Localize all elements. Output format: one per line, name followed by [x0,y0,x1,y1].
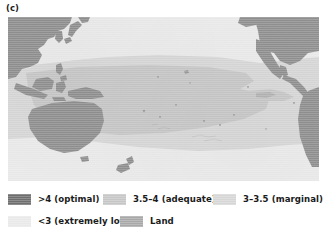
land-island-speck-2 [159,116,161,118]
land-island-speck-5 [219,124,221,126]
pacific-basin-map [8,17,319,181]
land-timor [52,97,66,101]
land-island-speck-7 [157,76,159,78]
legend-swatch-optimal [8,194,31,205]
legend-row-2: <3 (extremely low) Land [8,210,323,232]
legend-item-extremely-low[interactable]: <3 (extremely low) [8,216,120,227]
land-island-speck-10 [265,128,267,130]
land-island-speck-9 [247,86,249,88]
legend-item-adequate[interactable]: 3.5–4 (adequate) [103,194,213,205]
legend-item-land[interactable]: Land [120,216,174,227]
legend-row-1: >4 (optimal) 3.5–4 (adequate) 3–3.5 (mar… [8,188,323,210]
legend-swatch-marginal [213,194,236,205]
land-galapagos [293,102,295,104]
legend-label-extremely-low: <3 (extremely low) [38,216,132,227]
legend-item-marginal[interactable]: 3–3.5 (marginal) [213,194,323,205]
legend-label-marginal: 3–3.5 (marginal) [243,194,323,205]
map-figure [8,17,319,181]
land-island-speck-3 [175,104,177,106]
land-island-speck-1 [143,110,145,112]
land-island-speck-6 [233,114,235,116]
legend-item-optimal[interactable]: >4 (optimal) [8,194,103,205]
panel-label: (c) [6,2,19,14]
legend-label-optimal: >4 (optimal) [38,194,99,205]
land-island-speck-8 [189,82,191,84]
legend-swatch-adequate [103,194,126,205]
legend: >4 (optimal) 3.5–4 (adequate) 3–3.5 (mar… [8,188,323,232]
legend-label-adequate: 3.5–4 (adequate) [133,194,216,205]
legend-label-land: Land [150,216,174,227]
land-island-speck-4 [203,120,205,122]
legend-swatch-land [120,216,143,227]
legend-swatch-extremely-low [8,216,31,227]
